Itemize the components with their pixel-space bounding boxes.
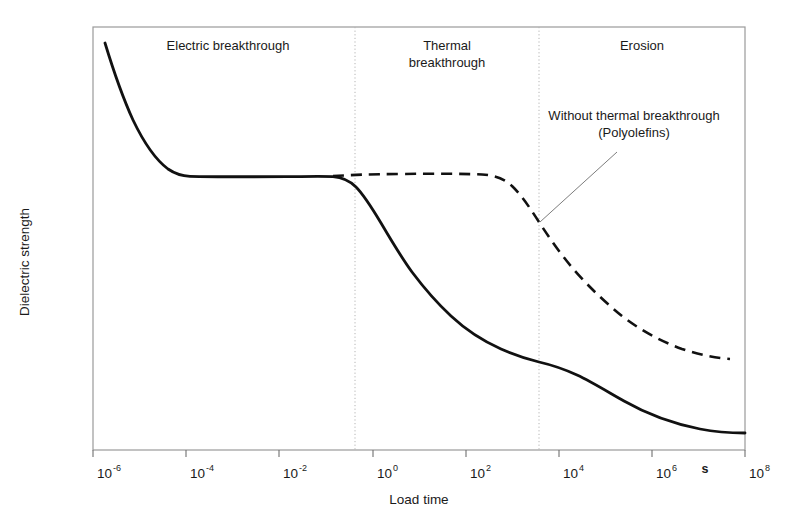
region-label-electric-breakthrough: Electric breakthrough [167,38,290,53]
x-tick-label-5-mantissa: 10 [563,466,578,481]
x-tick-label-3-mantissa: 10 [377,466,392,481]
x-tick-label-0-exponent: -6 [113,463,121,473]
y-axis-title: Dielectric strength [17,208,32,316]
x-tick-label-4-exponent: 2 [486,463,491,473]
x-tick-label-3-exponent: 0 [393,463,398,473]
x-tick-label-1-exponent: -4 [206,463,214,473]
x-tick-label-0-mantissa: 10 [97,466,112,481]
x-tick-label-7-mantissa: 10 [749,466,764,481]
x-tick-label-2-exponent: -2 [299,463,307,473]
x-tick-label-6-mantissa: 10 [656,466,671,481]
x-tick-label-1-mantissa: 10 [190,466,205,481]
x-tick-label-7-exponent: 8 [765,463,770,473]
x-tick-label-4-mantissa: 10 [470,466,485,481]
x-tick-label-6-exponent: 6 [672,463,677,473]
region-label-erosion: Erosion [620,38,664,53]
dielectric-strength-vs-load-time-chart: 10 -6 10 -4 10 -2 10 0 10 2 10 4 [0,0,788,521]
x-tick-label-5-exponent: 4 [579,463,584,473]
region-label-thermal-breakthrough-line1: Thermal [423,38,471,53]
x-tick-label-2-mantissa: 10 [283,466,298,481]
annotation-line-1: Without thermal breakthrough [548,108,719,123]
x-axis-unit-label: s [702,462,709,476]
annotation-line-2: (Polyolefins) [598,125,670,140]
region-label-thermal-breakthrough-line2: breakthrough [409,55,486,70]
chart-figure: 10 -6 10 -4 10 -2 10 0 10 2 10 4 [0,0,788,521]
x-axis-title: Load time [389,492,448,507]
chart-background [0,0,788,521]
